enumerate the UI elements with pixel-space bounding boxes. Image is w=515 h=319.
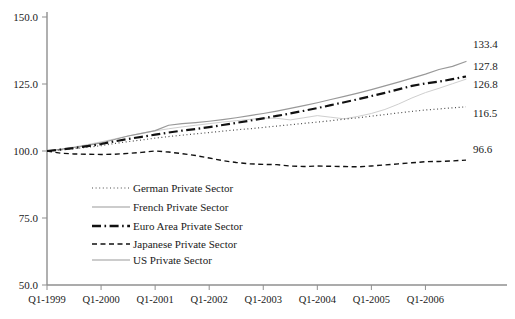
series-line-german-private-sector — [47, 107, 466, 151]
y-tick-label: 100.0 — [13, 145, 38, 157]
series-end-label: 116.5 — [473, 107, 498, 119]
series-end-label: 96.6 — [473, 143, 493, 155]
legend-label-2: Euro Area Private Sector — [133, 220, 243, 232]
legend-label-1: French Private Sector — [133, 201, 229, 213]
series-line-japanese-private-sector — [47, 151, 466, 167]
line-chart: 50.075.0100.0125.0150.0Q1-1999Q1-2000Q1-… — [0, 0, 515, 319]
series-end-label: 133.4 — [473, 38, 498, 50]
x-tick-label: Q1-2004 — [299, 294, 337, 305]
x-tick-label: Q1-2002 — [191, 294, 228, 305]
x-tick-label: Q1-2006 — [407, 294, 444, 305]
x-tick-label: Q1-2000 — [82, 294, 119, 305]
y-tick-label: 150.0 — [13, 11, 38, 23]
legend-label-0: German Private Sector — [133, 182, 234, 194]
x-tick-label: Q1-2005 — [353, 294, 390, 305]
series-end-label: 127.8 — [473, 60, 498, 72]
y-tick-label: 125.0 — [13, 78, 38, 90]
chart-canvas: 50.075.0100.0125.0150.0Q1-1999Q1-2000Q1-… — [0, 0, 515, 319]
x-tick-label: Q1-1999 — [28, 294, 65, 305]
legend-label-4: US Private Sector — [133, 254, 212, 266]
series-line-french-private-sector — [47, 61, 466, 151]
series-end-label: 126.8 — [473, 78, 498, 90]
x-tick-label: Q1-2003 — [245, 294, 282, 305]
y-tick-label: 75.0 — [19, 212, 39, 224]
legend-label-3: Japanese Private Sector — [133, 238, 237, 250]
y-tick-label: 50.0 — [19, 279, 39, 291]
x-tick-label: Q1-2001 — [136, 294, 173, 305]
